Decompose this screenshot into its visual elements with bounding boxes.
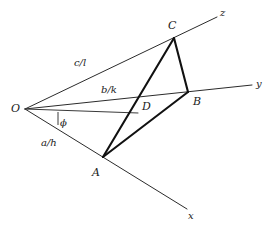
z-axis-line bbox=[25, 17, 217, 109]
geometry-figure: O A B C D x y z a/h b/k c/l ϕ bbox=[0, 0, 269, 227]
point-label-B: B bbox=[192, 95, 201, 108]
edge-C-B bbox=[174, 38, 188, 92]
intercept-label-b-over-k: b/k bbox=[101, 84, 117, 95]
axis-label-z: z bbox=[219, 7, 226, 18]
x-axis-line bbox=[25, 109, 187, 209]
point-label-A: A bbox=[91, 166, 100, 179]
point-label-D: D bbox=[141, 100, 151, 113]
edge-A-C bbox=[103, 38, 174, 157]
intercept-label-c-over-l: c/l bbox=[74, 57, 86, 68]
phi-angle-label: ϕ bbox=[60, 117, 67, 128]
axis-label-y: y bbox=[255, 78, 262, 89]
phi-reference-line bbox=[25, 109, 138, 113]
axis-label-x: x bbox=[188, 210, 194, 221]
intercept-label-a-over-h: a/h bbox=[41, 137, 57, 148]
point-label-C: C bbox=[168, 19, 177, 32]
point-label-O: O bbox=[11, 102, 20, 115]
diagram-canvas: O A B C D x y z a/h b/k c/l ϕ bbox=[0, 0, 269, 227]
